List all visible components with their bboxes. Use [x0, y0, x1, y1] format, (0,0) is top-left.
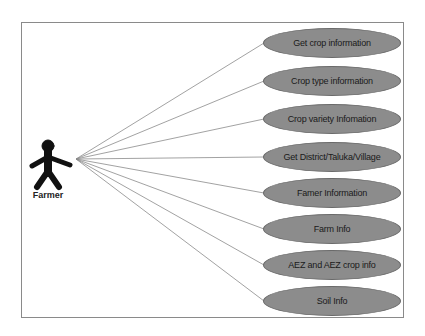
actor-label: Farmer — [28, 190, 68, 200]
use-case-soil-info[interactable]: Soil Info — [263, 286, 401, 316]
use-case-aez-crop-info[interactable]: AEZ and AEZ crop info — [263, 250, 401, 280]
use-case-farmer-information[interactable]: Famer Information — [263, 178, 401, 208]
use-case-crop-variety-information[interactable]: Crop variety Infomation — [263, 104, 401, 134]
use-case-get-district-taluka-village[interactable]: Get District/Taluka/Village — [263, 142, 401, 172]
use-case-farm-info[interactable]: Farm Info — [263, 214, 401, 244]
use-case-get-crop-information[interactable]: Get crop information — [263, 28, 401, 58]
use-case-crop-type-information[interactable]: Crop type information — [263, 66, 401, 96]
